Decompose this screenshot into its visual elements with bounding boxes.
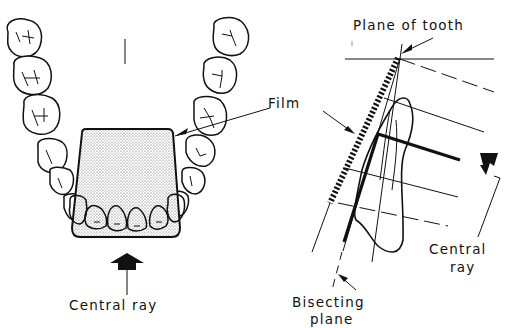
right-panel-sagittal: Plane of tooth Central ray Film: [268, 17, 500, 327]
central-ray-arrow-left: [110, 253, 144, 270]
bisecting-arrowhead: [338, 274, 348, 282]
film-leader-arrowhead: [175, 128, 188, 136]
central-ray-arrow-right: [480, 153, 498, 175]
bisecting-label-2: plane: [310, 311, 353, 327]
right-teeth: [172, 18, 249, 216]
bisecting-label-1: Bisecting: [292, 294, 365, 310]
plane-of-tooth-arrowhead: [401, 44, 412, 54]
left-panel-arch: Central ray: [7, 18, 270, 313]
central-ray-label-right-1: Central: [429, 241, 487, 257]
left-teeth: [7, 19, 84, 221]
central-ray-leader-right: [478, 176, 500, 237]
central-ray-label-left: Central ray: [69, 297, 157, 313]
film-label: Film: [268, 95, 300, 111]
dental-diagram: Central ray Plane of tooth Central: [0, 0, 511, 328]
ray-dashed-top: [400, 59, 494, 92]
ray-solid-mid: [384, 98, 484, 132]
central-ray-label-right-2: ray: [450, 259, 475, 275]
film-extension-line: [312, 203, 330, 252]
plane-of-tooth-label: Plane of tooth: [353, 17, 464, 33]
bisecting-leader-dashed: [332, 252, 342, 290]
